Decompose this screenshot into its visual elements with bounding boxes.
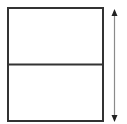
arrow-up-icon: [112, 9, 118, 16]
diagram-svg: [0, 0, 127, 124]
arrow-down-icon: [112, 115, 118, 122]
diagram-canvas: [0, 0, 127, 124]
